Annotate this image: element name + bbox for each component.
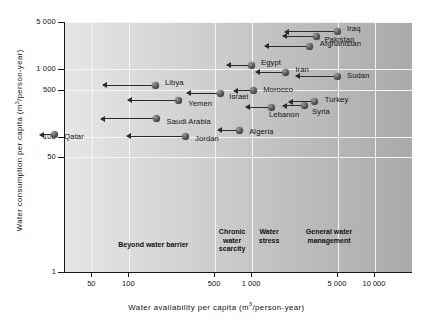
zone-label-0: Beyond water barrier — [118, 241, 188, 250]
cubic-superscript: 3 — [249, 301, 252, 307]
y-tick-1000 — [58, 69, 64, 70]
sphere-marker-icon — [282, 69, 289, 76]
gridline-y-1000 — [65, 69, 412, 70]
trend-arrow-icon — [101, 118, 157, 119]
point-label-iraq: Iraq — [347, 24, 361, 33]
point-label-libya: Libya — [165, 78, 184, 87]
trend-arrow-icon — [296, 76, 337, 77]
y-tick-500 — [58, 90, 64, 91]
trend-arrow-icon — [127, 136, 185, 137]
sphere-marker-icon — [175, 97, 182, 104]
x-tick-label-100: 100 — [122, 279, 135, 288]
y-tick-label-1: 1 — [0, 267, 56, 276]
point-label-lebanon: Lebanon — [269, 110, 299, 119]
zone-label-1: Chronic water scarcity — [219, 228, 245, 254]
x-tick-100 — [128, 272, 129, 277]
water-scatter-chart: 5 0001 000500100501501005001 0005 00010 … — [0, 0, 433, 320]
x-axis-title: Water availability per capita (m3/person… — [0, 301, 433, 312]
point-label-afghanistan: Afghanistan — [320, 39, 361, 48]
point-label-algeria: Algeria — [249, 127, 273, 136]
gridline-x-500 — [215, 22, 216, 272]
x-tick-label-50: 50 — [87, 279, 95, 288]
point-label-jordan: Jordan — [195, 134, 219, 143]
sphere-marker-icon — [51, 131, 58, 138]
zone-label-2: Water stress — [259, 228, 280, 245]
point-label-saudi-arabia: Saudi Arabia — [167, 117, 211, 126]
point-label-morocco: Morocco — [263, 85, 293, 94]
sphere-marker-icon — [301, 102, 308, 109]
y-tick-1 — [58, 272, 64, 273]
trend-arrow-icon — [187, 93, 220, 94]
gridline-x-100 — [129, 22, 130, 272]
x-tick-10000 — [374, 272, 375, 277]
y-tick-label-500: 500 — [0, 85, 56, 94]
sphere-marker-icon — [248, 62, 255, 69]
cubic-superscript: 3 — [14, 101, 20, 104]
x-tick-label-1000: 1 000 — [242, 279, 261, 288]
y-axis-title: Water consumption per capita (m3/person-… — [14, 25, 25, 255]
gridline-x-1000 — [252, 22, 253, 272]
point-label-egypt: Egypt — [261, 58, 281, 67]
y-tick-100 — [58, 137, 64, 138]
y-tick-label-5000: 5 000 — [0, 17, 56, 26]
sphere-marker-icon — [217, 90, 224, 97]
x-tick-label-5000: 5 000 — [328, 279, 347, 288]
gridline-y-100 — [65, 137, 412, 138]
point-label-qatar: Qatar — [64, 132, 84, 141]
sphere-marker-icon — [236, 127, 243, 134]
gridline-x-10000 — [375, 22, 376, 272]
trend-arrow-icon — [265, 46, 310, 47]
zone-label-3: General water management — [306, 228, 352, 245]
y-tick-label-1000: 1 000 — [0, 64, 56, 73]
y-tick-label-50: 50 — [0, 152, 56, 161]
gridline-x-50 — [92, 22, 93, 272]
x-tick-label-500: 500 — [208, 279, 221, 288]
point-label-yemen: Yemen — [188, 99, 212, 108]
x-tick-1000 — [251, 272, 252, 277]
trend-arrow-icon — [103, 85, 155, 86]
sphere-marker-icon — [250, 87, 257, 94]
trend-arrow-icon — [283, 36, 317, 37]
sphere-marker-icon — [306, 43, 313, 50]
y-tick-50 — [58, 157, 64, 158]
trend-arrow-icon — [285, 31, 337, 32]
gridline-y-50 — [65, 157, 412, 158]
point-label-turkey: Turkey — [325, 95, 349, 104]
sphere-marker-icon — [152, 82, 159, 89]
x-tick-500 — [214, 272, 215, 277]
point-label-syria: Syria — [312, 107, 330, 116]
trend-arrow-icon — [128, 100, 178, 101]
sphere-marker-icon — [334, 73, 341, 80]
x-tick-5000 — [337, 272, 338, 277]
point-label-sudan: Sudan — [347, 71, 369, 80]
sphere-marker-icon — [182, 133, 189, 140]
x-tick-label-10000: 10 000 — [363, 279, 386, 288]
x-tick-50 — [91, 272, 92, 277]
point-label-israel: Israel — [229, 92, 248, 101]
y-tick-5000 — [58, 22, 64, 23]
